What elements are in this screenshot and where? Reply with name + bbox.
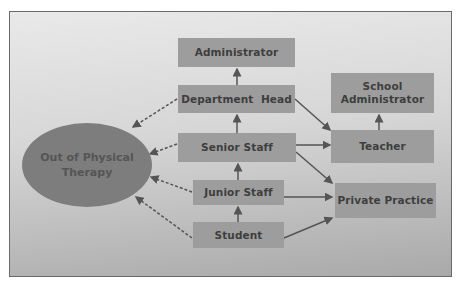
administrator-node: Administrator [178, 38, 295, 67]
out-of-physical-therapy-node: Out of Physical Therapy [22, 123, 152, 207]
arrow-dept-to-teacher [295, 99, 330, 130]
teacher-node: Teacher [331, 130, 434, 163]
junior-staff-node: Junior Staff [193, 180, 284, 205]
dashed-dept-to-ellipse [133, 99, 177, 127]
school-admin-line2: Administrator [341, 93, 425, 106]
private-practice-node: Private Practice [335, 183, 436, 218]
arrow-student-to-private [284, 218, 332, 238]
dashed-senior-to-ellipse [150, 144, 177, 154]
student-node: Student [193, 222, 284, 248]
school-admin-line1: School [363, 80, 403, 93]
arrow-senior-to-private [296, 152, 332, 183]
school-administrator-node: School Administrator [331, 73, 434, 113]
senior-staff-node: Senior Staff [178, 133, 296, 162]
ellipse-label-line1: Out of Physical [40, 150, 134, 165]
dashed-student-to-ellipse [136, 197, 192, 238]
ellipse-label-line2: Therapy [40, 165, 134, 180]
department-head-node: Department Head [178, 85, 295, 113]
dashed-junior-to-ellipse [151, 177, 192, 192]
